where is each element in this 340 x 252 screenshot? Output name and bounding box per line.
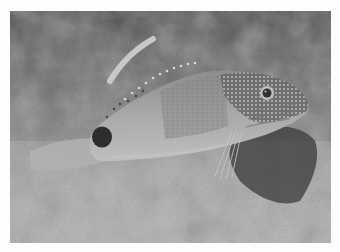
fish-illustration xyxy=(10,11,331,243)
fish-photograph xyxy=(10,11,331,243)
